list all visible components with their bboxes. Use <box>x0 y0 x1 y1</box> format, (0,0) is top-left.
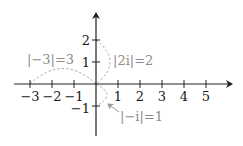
x-tick-label: −3 <box>20 89 39 104</box>
y-tick-labels: 2 1 −1 <box>71 33 90 116</box>
y-tick-label: 2 <box>82 33 90 48</box>
x-tick-labels: −3 −2 −1 1 2 3 4 5 <box>20 89 210 104</box>
x-tick-label: 4 <box>180 89 188 104</box>
complex-plane-diagram: −3 −2 −1 1 2 3 4 5 2 1 −1 |−3|=3 |2i|=2 … <box>0 0 243 146</box>
x-tick-label: 2 <box>136 89 144 104</box>
arc-negi <box>96 84 107 106</box>
y-tick-label: 1 <box>82 55 90 70</box>
x-tick-label: 3 <box>158 89 166 104</box>
annotation-neg3: |−3|=3 <box>27 52 74 67</box>
x-tick-label: 1 <box>114 89 122 104</box>
x-tick-label: −2 <box>42 89 61 104</box>
annotation-pointer-arrow <box>108 104 119 112</box>
y-tick-label: −1 <box>71 101 90 116</box>
x-tick-label: 5 <box>202 89 210 104</box>
annotation-2i: |2i|=2 <box>113 53 153 68</box>
arc-neg3 <box>30 69 96 85</box>
annotation-negi: |−i|=1 <box>120 109 163 124</box>
